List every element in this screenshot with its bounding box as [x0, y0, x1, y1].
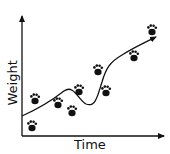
paw-icon: [129, 50, 139, 61]
weight-time-diagram: [0, 0, 170, 154]
x-axis-label: Time: [74, 137, 106, 152]
paw-icon: [27, 120, 37, 131]
y-axis-label: Weight: [5, 66, 20, 106]
paw-icon: [147, 24, 157, 35]
paw-icon: [101, 85, 111, 96]
trend-curve: [22, 37, 156, 116]
paw-icon: [93, 64, 103, 75]
paw-icon: [67, 105, 77, 116]
paw-icon: [30, 93, 40, 104]
paw-icon: [53, 97, 63, 108]
